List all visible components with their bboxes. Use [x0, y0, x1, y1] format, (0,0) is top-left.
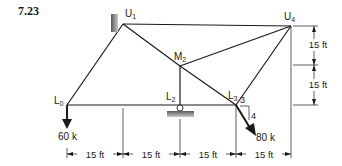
dim-v-2: 15 ft — [309, 79, 328, 90]
node-L2-label: L2 — [166, 91, 176, 103]
truss-members — [67, 24, 291, 105]
slope-h-label: 3 — [240, 95, 245, 105]
dim-v-1: 15 ft — [309, 39, 328, 50]
horizontal-dimensions: 15 ft 15 ft 15 ft 15 ft — [67, 148, 291, 160]
member-U1-M2 — [123, 24, 180, 66]
extension-lines — [67, 26, 318, 158]
problem-number: 7.23 — [18, 4, 39, 19]
arrow-diagonal-icon — [245, 123, 256, 136]
dim-h-3: 15 ft — [199, 149, 218, 160]
roller-icon — [177, 105, 183, 111]
load-L3: 3 4 80 k — [236, 95, 276, 143]
node-U4-label: U4 — [284, 11, 295, 23]
node-L3-label: L3 — [228, 90, 238, 102]
dim-h-4: 15 ft — [255, 149, 274, 160]
load-L0-label: 60 k — [58, 131, 78, 142]
node-M2-label: M2 — [174, 51, 186, 63]
load-L0: 60 k — [58, 105, 78, 142]
node-L0-label: L0 — [54, 95, 64, 107]
member-L0-U1 — [67, 24, 123, 105]
wall-support-U1 — [111, 14, 118, 32]
member-M2-U4 — [180, 26, 291, 66]
slope-v-label: 4 — [251, 111, 256, 121]
load-L3-label: 80 k — [256, 132, 276, 143]
node-labels: U1 U4 M2 L0 L2 L3 — [54, 8, 295, 107]
arrow-down-icon — [62, 119, 72, 129]
node-U1-label: U1 — [125, 8, 136, 20]
vertical-dimensions: 15 ft 15 ft — [304, 26, 332, 105]
member-U1-U4 — [123, 24, 291, 26]
member-L3-U4 — [236, 26, 291, 105]
dim-h-2: 15 ft — [142, 149, 161, 160]
ground-plate-L2 — [167, 111, 194, 117]
dim-h-1: 15 ft — [86, 149, 105, 160]
truss-figure: 7.23 — [0, 0, 342, 166]
